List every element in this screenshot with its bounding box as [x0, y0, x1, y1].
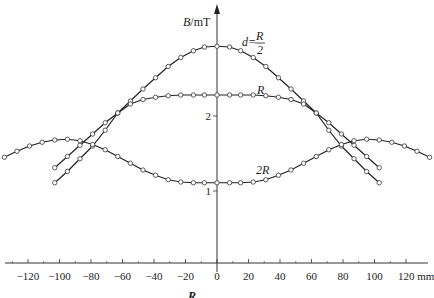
x-tick-label: −20: [177, 270, 195, 282]
x-tick-label: −100: [48, 270, 71, 282]
data-point-marker: [364, 137, 368, 141]
data-point-marker: [377, 181, 381, 185]
label-2r: 2R: [256, 163, 270, 177]
data-point-marker: [15, 149, 19, 153]
x-tick-label: 120 mm: [398, 270, 434, 282]
data-point-marker: [339, 142, 343, 146]
data-point-marker: [238, 93, 242, 97]
data-point-marker: [327, 121, 331, 125]
data-point-marker: [377, 166, 381, 170]
data-point-marker: [377, 138, 381, 142]
data-point-marker: [65, 169, 69, 173]
data-point-marker: [215, 181, 219, 185]
data-point-marker: [276, 95, 280, 99]
data-point-marker: [251, 93, 255, 97]
fraction-numerator: R: [255, 29, 264, 43]
data-point-marker: [227, 45, 231, 49]
data-point-marker: [65, 137, 69, 141]
data-point-marker: [179, 55, 183, 59]
x-tick-label: −60: [114, 270, 132, 282]
data-point-marker: [103, 148, 107, 152]
data-point-marker: [166, 178, 170, 182]
data-point-marker: [179, 93, 183, 97]
data-point-marker: [238, 49, 242, 53]
data-point-marker: [314, 111, 318, 115]
data-point-marker: [153, 76, 157, 80]
y-axis-arrow-icon: [214, 4, 220, 14]
data-point-marker: [103, 121, 107, 125]
data-point-marker: [191, 49, 195, 53]
data-point-marker: [402, 144, 406, 148]
x-tick-label: 80: [338, 270, 350, 282]
label-r: R: [256, 83, 265, 97]
data-point-marker: [352, 157, 356, 161]
data-point-marker: [116, 111, 120, 115]
data-point-marker: [179, 180, 183, 184]
data-point-marker: [314, 154, 318, 158]
data-point-marker: [327, 128, 331, 132]
data-point-marker: [276, 173, 280, 177]
data-point-marker: [53, 138, 57, 142]
data-point-marker: [78, 139, 82, 143]
data-point-marker: [141, 168, 145, 172]
data-point-marker: [116, 154, 120, 158]
x-tick-label: 100: [366, 270, 383, 282]
data-point-marker: [53, 166, 57, 170]
data-point-marker: [352, 143, 356, 147]
d-equals-label: d=: [242, 35, 256, 49]
data-point-marker: [364, 154, 368, 158]
data-point-marker: [202, 181, 206, 185]
x-tick-label: 20: [243, 270, 255, 282]
data-point-marker: [415, 149, 419, 153]
data-point-marker: [90, 142, 94, 146]
data-point-marker: [191, 181, 195, 185]
data-point-marker: [251, 180, 255, 184]
data-point-marker: [78, 143, 82, 147]
x-tick-label: 0: [214, 270, 220, 282]
caption-fragment: R: [187, 289, 196, 298]
data-point-marker: [166, 94, 170, 98]
data-point-marker: [40, 140, 44, 144]
x-tick-label: −40: [145, 270, 163, 282]
fraction-denominator: 2: [257, 43, 263, 57]
data-point-marker: [153, 95, 157, 99]
data-point-marker: [276, 76, 280, 80]
data-point-marker: [191, 93, 195, 97]
data-point-marker: [78, 157, 82, 161]
data-point-marker: [128, 102, 132, 106]
data-point-marker: [327, 148, 331, 152]
data-point-marker: [251, 55, 255, 59]
data-point-marker: [65, 154, 69, 158]
x-ticks: −120−100−80−60−40−20020406080100120 mm: [12, 259, 434, 282]
data-point-marker: [103, 128, 107, 132]
data-point-marker: [427, 155, 431, 159]
data-point-marker: [90, 132, 94, 136]
data-point-marker: [202, 45, 206, 49]
x-tick-label: −120: [17, 270, 40, 282]
data-point-marker: [128, 161, 132, 165]
data-point-marker: [227, 181, 231, 185]
y-tick-label: 1: [206, 185, 212, 197]
y-tick-label: 2: [206, 110, 212, 122]
data-point-marker: [364, 169, 368, 173]
field-distribution-chart: −120−100−80−60−40−20020406080100120 mm 1…: [0, 0, 434, 298]
data-point-marker: [289, 87, 293, 91]
data-point-marker: [339, 132, 343, 136]
data-point-marker: [2, 155, 6, 159]
x-tick-label: 40: [275, 270, 287, 282]
data-point-marker: [153, 173, 157, 177]
data-point-marker: [289, 168, 293, 172]
data-point-marker: [141, 87, 145, 91]
data-point-marker: [202, 93, 206, 97]
data-point-marker: [215, 93, 219, 97]
data-point-marker: [301, 102, 305, 106]
data-point-marker: [289, 97, 293, 101]
data-point-marker: [215, 44, 219, 48]
x-tick-label: −80: [82, 270, 100, 282]
x-tick-label: 60: [306, 270, 318, 282]
data-point-marker: [166, 64, 170, 68]
data-point-marker: [264, 64, 268, 68]
data-point-marker: [227, 93, 231, 97]
data-point-marker: [53, 181, 57, 185]
y-axis-label: B/mT: [183, 15, 211, 29]
